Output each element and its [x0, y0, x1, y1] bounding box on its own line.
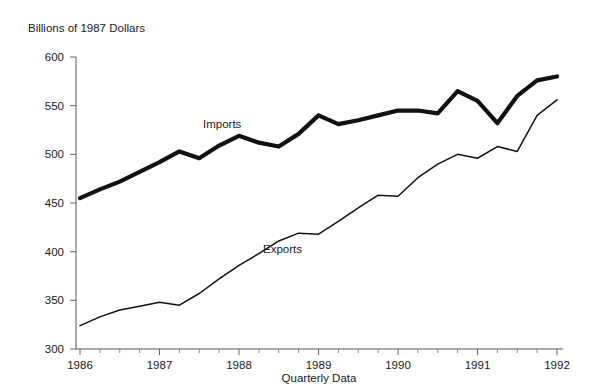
x-tick-label: 1987 — [147, 359, 173, 371]
y-tick-label: 500 — [45, 148, 64, 160]
x-axis-title: Quarterly Data — [282, 372, 357, 384]
y-tick-label: 400 — [45, 246, 64, 258]
line-chart: Billions of 1987 Dollars 300350400450500… — [0, 0, 591, 388]
chart-canvas: Billions of 1987 Dollars 300350400450500… — [0, 0, 591, 388]
y-axis: 300350400450500550600 — [45, 51, 76, 355]
series-line-imports — [80, 76, 557, 198]
y-tick-label: 350 — [45, 294, 64, 306]
x-tick-label: 1992 — [544, 359, 570, 371]
y-tick-label: 550 — [45, 100, 64, 112]
x-tick-labels: 1986198719881989199019911992 — [67, 359, 570, 371]
y-tick-labels: 300350400450500550600 — [45, 51, 64, 355]
y-tick-label: 450 — [45, 197, 64, 209]
x-tick-marks — [80, 349, 557, 355]
x-tick-label: 1986 — [67, 359, 93, 371]
y-tick-label: 300 — [45, 343, 64, 355]
x-tick-label: 1990 — [385, 359, 411, 371]
y-tick-marks — [70, 57, 76, 349]
series-label-imports: Imports — [203, 118, 242, 130]
series-label-exports: Exports — [263, 243, 302, 255]
chart-title: Billions of 1987 Dollars — [28, 22, 145, 34]
x-axis: 1986198719881989199019911992 — [67, 349, 570, 371]
x-tick-label: 1989 — [306, 359, 332, 371]
x-tick-label: 1991 — [465, 359, 491, 371]
y-tick-label: 600 — [45, 51, 64, 63]
x-tick-label: 1988 — [226, 359, 252, 371]
series-line-exports — [80, 100, 557, 326]
